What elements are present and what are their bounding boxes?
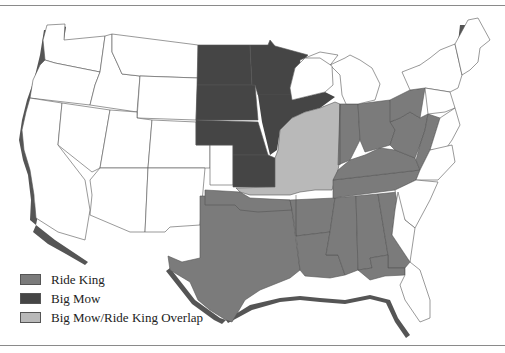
bottom-rule (0, 345, 505, 346)
state-new-mexico (145, 168, 205, 232)
ride-king-swatch (20, 274, 41, 285)
state-south-dakota (196, 85, 258, 120)
legend-label: Ride King (51, 272, 105, 288)
big-mow-swatch (20, 293, 41, 304)
state-indiana (338, 104, 360, 165)
state-arkansas (290, 198, 335, 236)
legend-label: Big Mow/Ride King Overlap (51, 310, 203, 326)
state-new-york (402, 44, 462, 92)
state-ohio (358, 100, 395, 152)
state-wyoming (137, 76, 198, 120)
state-arizona (90, 168, 148, 232)
legend-label: Big Mow (51, 291, 100, 307)
legend-item-big-mow: Big Mow (20, 289, 203, 308)
state-montana (112, 34, 198, 78)
legend-item-ride-king: Ride King (20, 270, 203, 289)
legend-item-overlap: Big Mow/Ride King Overlap (20, 308, 203, 327)
map-legend: Ride King Big Mow Big Mow/Ride King Over… (20, 270, 203, 327)
state-kansas-east (233, 155, 275, 187)
state-north-dakota (197, 45, 252, 85)
state-kansas-west (210, 145, 233, 185)
overlap-swatch (20, 312, 41, 323)
